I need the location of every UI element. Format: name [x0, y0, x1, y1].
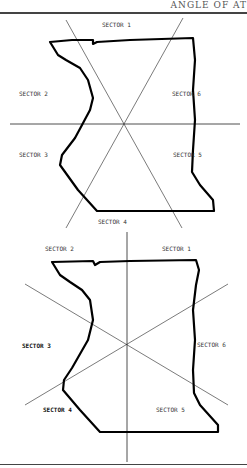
fig1-label-sector-3: SECTOR 3: [19, 151, 48, 158]
fig1-label-sector-4: SECTOR 4: [98, 218, 127, 225]
outline-shape: [52, 260, 218, 432]
fig1-label-sector-5: SECTOR 5: [173, 151, 202, 158]
fig2-label-sector-4: SECTOR 4: [43, 406, 72, 413]
fig2-label-sector-2: SECTOR 2: [45, 245, 74, 252]
fig2-label-sector-6: SECTOR 6: [197, 341, 226, 348]
diagram-canvas: [0, 0, 247, 468]
fig1-label-sector-6: SECTOR 6: [172, 90, 201, 97]
fig1-label-sector-1: SECTOR 1: [102, 21, 131, 28]
outline-shape: [50, 38, 214, 211]
fig2-label-sector-3: SECTOR 3: [22, 342, 51, 349]
figure-top: [10, 18, 240, 228]
fig2-label-sector-1: SECTOR 1: [162, 245, 191, 252]
fig2-label-sector-5: SECTOR 5: [156, 406, 185, 413]
fig1-label-sector-2: SECTOR 2: [19, 90, 48, 97]
